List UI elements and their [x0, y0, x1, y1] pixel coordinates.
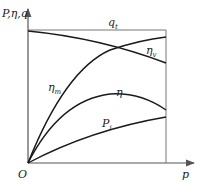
pi-curve [28, 117, 166, 163]
performance-curves-diagram: P,η,q p O qt ηv ηm η Pi [0, 0, 203, 182]
origin-label: O [18, 168, 27, 181]
eta-m-label: ηm [48, 81, 62, 96]
y-axis-label: P,η,q [1, 7, 28, 20]
qt-label: qt [108, 16, 118, 31]
pi-label: Pi [101, 117, 112, 132]
eta-label: η [116, 86, 123, 99]
x-axis-label: p [182, 168, 189, 181]
eta-v-label: ηv [146, 44, 157, 59]
